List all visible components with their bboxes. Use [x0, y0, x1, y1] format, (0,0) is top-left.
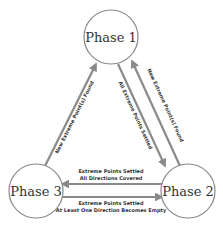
edge-phase3-to-phase2: Extreme Points Settled At Least One Dire… [56, 197, 167, 214]
edge-phase2-to-phase3: Extreme Points Settled All Directions Co… [62, 168, 163, 184]
edge-label-settled-one-empty-2: At Least One Direction Becomes Empty [56, 207, 167, 214]
edge-phase3-to-phase1: New Extreme Point(s) Found [45, 64, 96, 166]
state-diagram: New Extreme Point(s) Found All Extreme P… [0, 0, 223, 230]
node-phase3-label: Phase 3 [10, 184, 62, 199]
edge-label-settled-all-covered-2: All Directions Covered [80, 175, 143, 181]
edge-label-new-extreme-found-left: New Extreme Point(s) Found [53, 79, 95, 154]
node-phase2-label: Phase 2 [162, 184, 214, 199]
node-phase2: Phase 2 [161, 164, 215, 218]
edge-label-all-extreme-settled: All Extreme Points Settled [118, 80, 155, 150]
edge-label-settled-one-empty-1: Extreme Points Settled [78, 200, 144, 206]
node-phase3: Phase 3 [9, 164, 63, 218]
node-phase1-label: Phase 1 [85, 30, 137, 45]
edge-label-settled-all-covered-1: Extreme Points Settled [78, 168, 144, 174]
node-phase1: Phase 1 [84, 10, 138, 64]
